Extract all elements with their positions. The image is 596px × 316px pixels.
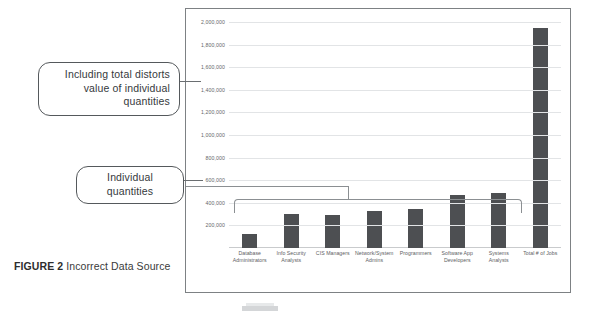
- x-axis-tick-label: Network/System Admins: [354, 250, 396, 290]
- gridline: [229, 135, 561, 136]
- y-axis-tick-label: 1,000,000: [201, 132, 225, 138]
- x-axis-labels: Database AdministratorsInfo Security Ana…: [229, 250, 561, 290]
- y-axis-tick-label: 2,000,000: [201, 19, 225, 25]
- bracket-stem-horizontal: [186, 186, 349, 187]
- callout-individual-leader-line: [183, 180, 203, 181]
- bar: [533, 28, 548, 248]
- x-axis-tick-label: Database Administrators: [229, 250, 271, 290]
- figure-title: Incorrect Data Source: [63, 260, 170, 272]
- callout-including-total: Including total distorts value of indivi…: [38, 62, 180, 116]
- gridline: [229, 112, 561, 113]
- gridline: [229, 90, 561, 91]
- x-axis-tick-label: Programmers: [395, 250, 437, 290]
- figure-caption: FIGURE 2 Incorrect Data Source: [14, 259, 179, 273]
- bar: [408, 209, 423, 248]
- y-axis-tick-label: 1,600,000: [201, 64, 225, 70]
- individual-quantities-bracket: [234, 199, 522, 213]
- y-axis-tick-label: 800,000: [206, 155, 225, 161]
- gridline: [229, 45, 561, 46]
- callout-individual-quantities: Individual quantities: [76, 166, 184, 204]
- callout-total-leader-line: [179, 81, 201, 82]
- gridline: [229, 225, 561, 226]
- x-axis-tick-label: Software App Developers: [437, 250, 479, 290]
- figure-label: FIGURE 2: [14, 260, 63, 272]
- y-axis-tick-label: 1,400,000: [201, 87, 225, 93]
- x-axis-tick-label: Info Security Analysts: [271, 250, 313, 290]
- y-axis-tick-label: 1,800,000: [201, 42, 225, 48]
- gridline: [229, 158, 561, 159]
- y-axis-tick-label: 400,000: [206, 200, 225, 206]
- bracket-stem-vertical: [348, 186, 349, 200]
- gridline: [229, 22, 561, 23]
- bar: [367, 211, 382, 248]
- x-axis-tick-label: Total # of Jobs: [520, 250, 562, 290]
- bar: [284, 214, 299, 248]
- x-axis-tick-label: CIS Managers: [312, 250, 354, 290]
- bar: [242, 234, 257, 248]
- y-axis-tick-label: 600,000: [206, 177, 225, 183]
- page-edge-artifact: [242, 306, 278, 311]
- y-axis-tick-label: 1,200,000: [201, 109, 225, 115]
- plot-area: 2,000,0001,800,0001,600,0001,400,0001,20…: [229, 22, 561, 248]
- gridline: [229, 67, 561, 68]
- chart-panel: 2,000,0001,800,0001,600,0001,400,0001,20…: [185, 8, 571, 293]
- bar: [325, 215, 340, 248]
- gridline: [229, 180, 561, 181]
- y-axis-tick-label: 200,000: [206, 222, 225, 228]
- x-axis-tick-label: Systems Analysts: [478, 250, 520, 290]
